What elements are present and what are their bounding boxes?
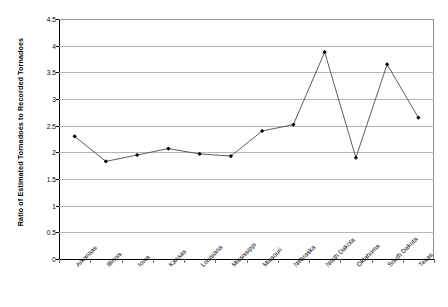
y-tick-label: 1.5 (34, 176, 56, 183)
x-tick-label: Louisiana (199, 263, 205, 269)
x-tick-label: South Dakota (386, 263, 392, 269)
y-tick-label: 4 (34, 42, 56, 49)
x-tick-label: Mississippi (230, 263, 236, 269)
data-point-marker (416, 116, 420, 120)
y-tick-label: 0 (34, 256, 56, 263)
x-tick-label: Nebraska (292, 263, 298, 269)
chart-container: Ratio of Estimated Tornadoes to Recorded… (0, 0, 448, 307)
data-point-marker (354, 156, 358, 160)
x-tick-label: Kansas (167, 263, 173, 269)
series-markers (73, 50, 421, 164)
x-tick-label: Iowa (136, 263, 142, 269)
y-tick-label: 0.5 (34, 229, 56, 236)
x-tick-label: Oklahoma (355, 263, 361, 269)
y-tick-label: 3.5 (34, 69, 56, 76)
y-tick-label: 4.5 (34, 16, 56, 23)
series-polyline (75, 52, 419, 161)
data-point-marker (135, 153, 139, 157)
y-tick-label: 1 (34, 202, 56, 209)
data-point-marker (291, 123, 295, 127)
x-tick-label: Missouri (261, 263, 267, 269)
y-axis-tick-labels: 00.511.522.533.544.5 (20, 0, 56, 307)
x-tick-label: Illinois (105, 263, 111, 269)
x-tick-label: North Dakota (324, 263, 330, 269)
x-axis-tick-labels: ArkansasIllinoisIowaKansasLouisianaMissi… (59, 263, 434, 307)
plot-area (59, 19, 434, 259)
data-point-marker (198, 152, 202, 156)
x-tick-label: Arkansas (74, 263, 80, 269)
y-tick-label: 2 (34, 149, 56, 156)
data-series-line (59, 19, 434, 259)
data-point-marker (385, 62, 389, 66)
y-tick-label: 3 (34, 96, 56, 103)
x-tick-label: Texas (417, 263, 423, 269)
y-tick-label: 2.5 (34, 122, 56, 129)
x-tick-mark (434, 259, 435, 263)
data-point-marker (166, 147, 170, 151)
data-point-marker (323, 50, 327, 54)
